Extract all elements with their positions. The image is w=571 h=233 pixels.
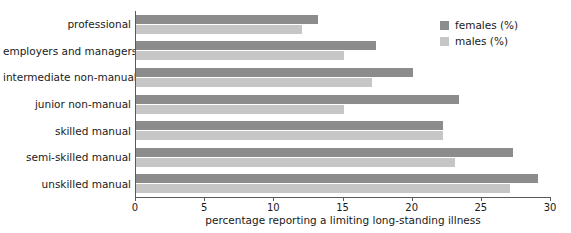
bar-females xyxy=(135,121,443,130)
y-axis-tick-label: employers and managers xyxy=(3,45,131,57)
bar-females xyxy=(135,68,413,77)
y-axis-tick-label: intermediate non-manual xyxy=(3,71,131,83)
bar-males xyxy=(135,184,510,193)
x-axis-tick-mark xyxy=(481,197,482,201)
bar-females xyxy=(135,15,318,24)
x-axis-tick-label: 20 xyxy=(405,202,418,213)
x-axis-tick-label: 30 xyxy=(544,202,557,213)
legend-label-males: males (%) xyxy=(455,35,508,47)
x-axis-tick-mark xyxy=(273,197,274,201)
y-axis-tick-label: professional xyxy=(3,18,131,30)
bar-males xyxy=(135,51,344,60)
y-axis-tick-label: unskilled manual xyxy=(3,178,131,190)
x-axis-tick-label: 15 xyxy=(336,202,349,213)
legend-label-females: females (%) xyxy=(455,19,518,31)
legend-item-males: males (%) xyxy=(440,34,518,48)
x-axis-tick-mark xyxy=(550,197,551,201)
bar-males xyxy=(135,78,372,87)
legend-item-females: females (%) xyxy=(440,18,518,32)
x-axis-tick-mark xyxy=(343,197,344,201)
bar-females xyxy=(135,148,513,157)
y-axis-tick-label: junior non-manual xyxy=(3,98,131,110)
chart-legend: females (%) males (%) xyxy=(440,18,518,50)
x-axis-tick-label: 10 xyxy=(267,202,280,213)
bar-males xyxy=(135,25,302,34)
x-axis-tick-mark xyxy=(135,197,136,201)
bar-females xyxy=(135,174,538,183)
y-axis-labels: professionalemployers and managersinterm… xyxy=(0,11,131,197)
bar-males xyxy=(135,105,344,114)
x-axis-title: percentage reporting a limiting long-sta… xyxy=(135,214,551,226)
y-axis-tick-label: semi-skilled manual xyxy=(3,151,131,163)
y-axis-tick-label: skilled manual xyxy=(3,125,131,137)
x-axis-tick-label: 5 xyxy=(201,202,207,213)
legend-swatch-males-icon xyxy=(440,37,449,46)
x-axis-tick-mark xyxy=(204,197,205,201)
bar-females xyxy=(135,95,459,104)
x-axis-tick-label: 0 xyxy=(132,202,138,213)
x-axis-tick-mark xyxy=(412,197,413,201)
bar-females xyxy=(135,41,376,50)
bar-males xyxy=(135,158,455,167)
y-axis-line xyxy=(135,11,136,198)
bar-males xyxy=(135,131,443,140)
x-axis-tick-label: 25 xyxy=(474,202,487,213)
bar-chart: professionalemployers and managersinterm… xyxy=(0,0,571,233)
legend-swatch-females-icon xyxy=(440,21,449,30)
